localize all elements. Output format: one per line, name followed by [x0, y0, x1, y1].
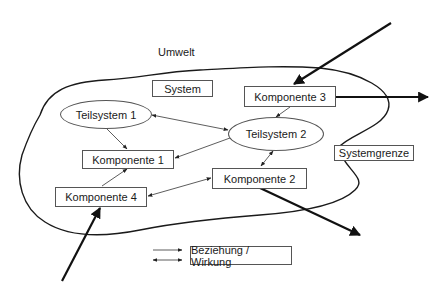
environment-label: Umwelt	[158, 47, 195, 58]
komponente-4-box: Komponente 4	[55, 187, 147, 207]
output-arrow-k2	[260, 188, 360, 235]
komponente-2-box: Komponente 2	[212, 168, 307, 189]
input-arrow-k3	[294, 23, 391, 84]
systemgrenze-box: Systemgrenze	[334, 145, 414, 161]
legend-box: Beziehung / Wirkung	[190, 246, 292, 265]
input-arrow-k4	[62, 208, 100, 281]
relation-k4-k2	[148, 178, 211, 196]
relation-k3-ts2	[276, 107, 290, 117]
relation-ts1-ts2	[152, 115, 228, 130]
relation-ts1-k1	[107, 129, 127, 149]
system-box: System	[152, 80, 213, 97]
komponente-3-box: Komponente 3	[244, 86, 336, 107]
teilsystem-1-ellipse: Teilsystem 1	[60, 100, 152, 129]
relation-k4-k1	[102, 169, 127, 186]
komponente-1-box: Komponente 1	[82, 150, 174, 169]
relation-ts2-k2	[261, 151, 273, 166]
teilsystem-2-ellipse: Teilsystem 2	[228, 117, 324, 151]
relation-ts2-k1	[175, 138, 230, 158]
